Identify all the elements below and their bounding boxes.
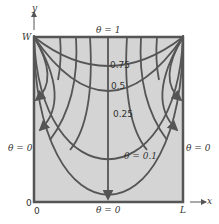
x-end-label: L xyxy=(180,206,186,215)
isotherm-label-075: 0.75 xyxy=(110,61,130,70)
right-boundary-label: θ = 0 xyxy=(186,144,210,153)
y-end-label: W xyxy=(22,33,31,42)
x-axis-label: x xyxy=(207,197,212,206)
y-axis-label: y xyxy=(32,4,37,13)
origin-x-label: 0 xyxy=(34,207,40,216)
top-boundary-label: θ = 1 xyxy=(96,26,120,35)
isotherm-label-01: θ = 0.1 xyxy=(124,152,157,161)
bottom-boundary-label: θ = 0 xyxy=(96,206,120,215)
isotherm-label-025: 0.25 xyxy=(113,110,133,119)
left-boundary-label: θ = 0 xyxy=(8,144,32,153)
origin-y-label: 0 xyxy=(26,199,32,208)
isotherm-label-05: 0.5 xyxy=(111,82,125,91)
